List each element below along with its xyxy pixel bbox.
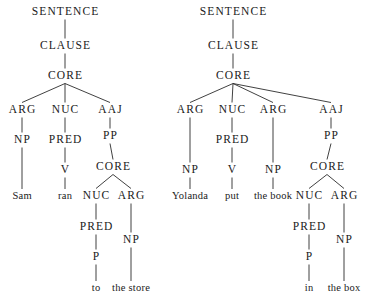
tree-edge bbox=[327, 175, 344, 189]
tree-edge bbox=[309, 175, 327, 189]
category-l-core: CORE bbox=[47, 70, 83, 82]
category-l-arg: ARG bbox=[8, 104, 37, 116]
category-l-p: P bbox=[92, 251, 101, 263]
category-r-clause: CLAUSE bbox=[207, 40, 259, 52]
category-l-nuc2: NUC bbox=[82, 190, 111, 202]
terminal-l-sam: Sam bbox=[12, 191, 32, 202]
category-r-core2: CORE bbox=[309, 161, 345, 173]
terminal-l-to: to bbox=[92, 283, 101, 294]
category-r-arg1: ARG bbox=[176, 104, 205, 116]
tree-edge bbox=[65, 84, 110, 103]
tree-edge bbox=[233, 84, 331, 103]
category-l-core2: CORE bbox=[95, 161, 131, 173]
category-l-clause: CLAUSE bbox=[39, 40, 91, 52]
category-r-arg3: ARG bbox=[330, 190, 359, 202]
category-l-pred1: PRED bbox=[48, 134, 83, 146]
category-l-pp: PP bbox=[102, 130, 118, 142]
tree-edge bbox=[327, 144, 331, 160]
tree-edge bbox=[110, 144, 113, 160]
terminal-r-yolanda: Yolanda bbox=[172, 191, 209, 202]
category-r-sentence: SENTENCE bbox=[199, 6, 268, 18]
category-l-aaj: AAJ bbox=[97, 104, 122, 116]
category-r-np3: NP bbox=[335, 234, 353, 246]
tree-edge bbox=[190, 84, 233, 103]
category-r-arg2: ARG bbox=[259, 104, 288, 116]
tree-edge bbox=[96, 175, 113, 189]
category-r-v: V bbox=[227, 164, 238, 176]
category-r-np1: NP bbox=[181, 164, 199, 176]
category-l-v: V bbox=[60, 164, 71, 176]
category-l-np1: NP bbox=[13, 134, 31, 146]
category-l-pred2: PRED bbox=[79, 221, 114, 233]
category-r-pred2: PRED bbox=[292, 221, 327, 233]
terminal-r-put: put bbox=[225, 191, 239, 202]
category-r-pp: PP bbox=[323, 130, 339, 142]
terminal-r-thebook: the book bbox=[254, 191, 293, 202]
tree-edge bbox=[22, 84, 65, 103]
category-r-core: CORE bbox=[215, 70, 251, 82]
tree-edge bbox=[232, 84, 233, 103]
terminal-r-thebox: the box bbox=[327, 283, 360, 294]
category-l-np2: NP bbox=[122, 234, 140, 246]
terminal-l-ran: ran bbox=[58, 191, 72, 202]
category-r-nuc2: NUC bbox=[295, 190, 324, 202]
terminal-l-thestore: the store bbox=[112, 283, 150, 294]
category-r-pred1: PRED bbox=[215, 134, 250, 146]
tree-diagram-canvas: SENTENCECLAUSECOREARGNUCAAJNPPREDPPVCORE… bbox=[0, 0, 370, 305]
tree-edge bbox=[233, 84, 273, 103]
terminal-r-in: in bbox=[305, 283, 314, 294]
category-r-np2: NP bbox=[264, 164, 282, 176]
category-r-p: P bbox=[305, 251, 314, 263]
tree-edge bbox=[113, 175, 131, 189]
category-r-aaj: AAJ bbox=[318, 104, 343, 116]
category-l-arg2: ARG bbox=[117, 190, 146, 202]
category-r-nuc: NUC bbox=[218, 104, 247, 116]
category-l-sentence: SENTENCE bbox=[31, 6, 100, 18]
category-l-nuc: NUC bbox=[51, 104, 80, 116]
